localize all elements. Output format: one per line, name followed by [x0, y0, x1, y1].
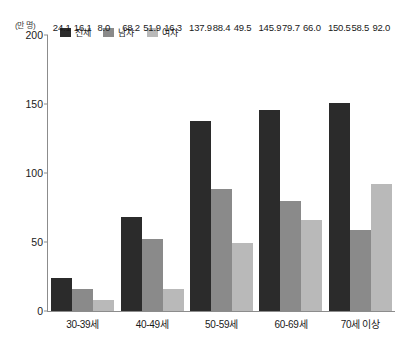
bar-rect: 58.5	[350, 230, 371, 311]
bar-value-label: 49.5	[234, 22, 252, 33]
y-tick-label: 50	[31, 236, 43, 248]
bar-rect: 79.7	[280, 201, 301, 311]
y-tick-label: 150	[25, 98, 43, 110]
bar-group: 150.558.592.0	[329, 35, 392, 311]
bar-남자-50-59세[interactable]: 88.4	[211, 35, 232, 311]
bar-rect: 68.2	[121, 217, 142, 311]
bar-group: 137.988.449.5	[190, 35, 253, 311]
bar-전체-60-69세[interactable]: 145.9	[259, 35, 280, 311]
bar-value-label: 16.3	[164, 22, 182, 33]
bar-rect: 88.4	[211, 189, 232, 311]
bar-value-label: 150.5	[328, 22, 351, 33]
y-tick-mark	[44, 104, 48, 105]
y-tick-label: 200	[25, 29, 43, 41]
bar-rect: 24.1	[51, 278, 72, 311]
x-label-70세 이상: 70세 이상	[341, 316, 380, 331]
y-tick-mark	[44, 311, 48, 312]
y-tick-mark	[44, 35, 48, 36]
bar-전체-40-49세[interactable]: 68.2	[121, 35, 142, 311]
bar-여자-50-59세[interactable]: 49.5	[232, 35, 253, 311]
y-tick-label: 0	[37, 305, 43, 317]
bar-value-label: 92.0	[372, 22, 390, 33]
bar-value-label: 58.5	[351, 22, 369, 33]
x-label-50-59세: 50-59세	[205, 316, 238, 331]
bar-value-label: 24.1	[53, 22, 71, 33]
bar-여자-70세 이상[interactable]: 92.0	[371, 35, 392, 311]
bar-rect: 66.0	[301, 220, 322, 311]
bar-value-label: 8.0	[97, 22, 110, 33]
bar-rect: 150.5	[329, 103, 350, 311]
bar-value-label: 137.9	[189, 22, 212, 33]
bar-value-label: 66.0	[303, 22, 321, 33]
bar-여자-30-39세[interactable]: 8.0	[93, 35, 114, 311]
bar-남자-70세 이상[interactable]: 58.5	[350, 35, 371, 311]
bar-rect: 8.0	[93, 300, 114, 311]
bar-rect: 92.0	[371, 184, 392, 311]
y-tick-label: 100	[25, 167, 43, 179]
bar-rect: 51.9	[142, 239, 163, 311]
bar-전체-50-59세[interactable]: 137.9	[190, 35, 211, 311]
y-tick-mark	[44, 242, 48, 243]
y-tick-mark	[44, 173, 48, 174]
bar-value-label: 68.2	[122, 22, 140, 33]
bar-남자-60-69세[interactable]: 79.7	[280, 35, 301, 311]
bar-value-label: 79.7	[282, 22, 300, 33]
x-label-40-49세: 40-49세	[136, 316, 169, 331]
bar-rect: 137.9	[190, 121, 211, 311]
x-label-60-69세: 60-69세	[275, 316, 308, 331]
x-axis-line	[47, 311, 395, 312]
bar-value-label: 51.9	[143, 22, 161, 33]
bar-전체-70세 이상[interactable]: 150.5	[329, 35, 350, 311]
bar-rect: 16.1	[72, 289, 93, 311]
bar-value-label: 88.4	[213, 22, 231, 33]
bar-value-label: 16.1	[74, 22, 92, 33]
y-axis-ticks: 050100150200	[0, 0, 43, 347]
bar-rect: 145.9	[259, 110, 280, 311]
bar-group: 68.251.916.3	[121, 35, 184, 311]
bar-남자-30-39세[interactable]: 16.1	[72, 35, 93, 311]
bar-group: 24.116.18.0	[51, 35, 114, 311]
bar-남자-40-49세[interactable]: 51.9	[142, 35, 163, 311]
bar-chart: (만 명) 050100150200 전체남자여자 24.116.18.068.…	[0, 0, 401, 347]
bar-rect: 16.3	[163, 289, 184, 311]
bar-value-label: 145.9	[259, 22, 282, 33]
bar-rect: 49.5	[232, 243, 253, 311]
x-axis-category-labels: 30-39세40-49세50-59세60-69세70세 이상	[48, 316, 395, 340]
bar-group: 145.979.766.0	[259, 35, 322, 311]
plot-area: 24.116.18.068.251.916.3137.988.449.5145.…	[48, 35, 395, 311]
bar-여자-60-69세[interactable]: 66.0	[301, 35, 322, 311]
bar-전체-30-39세[interactable]: 24.1	[51, 35, 72, 311]
bar-여자-40-49세[interactable]: 16.3	[163, 35, 184, 311]
x-label-30-39세: 30-39세	[66, 316, 99, 331]
